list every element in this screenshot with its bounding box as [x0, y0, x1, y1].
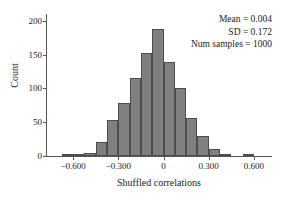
y-tick-label: 0 [0, 151, 42, 161]
histogram-bar [220, 154, 231, 156]
histogram-bar [62, 154, 73, 156]
histogram-bar [175, 88, 186, 156]
histogram-bar [209, 149, 220, 156]
histogram-bar [152, 29, 163, 156]
annotation-line-3: Num samples = 1000 [191, 38, 272, 51]
histogram-bar [141, 53, 152, 156]
x-tick-mark [254, 157, 255, 160]
y-tick-label: 50 [0, 117, 42, 127]
histogram-bar [243, 154, 254, 156]
x-tick-mark [164, 157, 165, 160]
histogram-bar [186, 118, 197, 156]
x-tick-label: 0 [161, 161, 166, 171]
histogram-bar [73, 154, 84, 156]
x-tick-mark [209, 157, 210, 160]
annotation-line-1: Mean = 0.004 [191, 13, 272, 26]
x-tick-mark [118, 157, 119, 160]
histogram-bar [164, 62, 175, 156]
histogram-bar [84, 153, 95, 156]
y-axis-ticks: 050100150200 [0, 0, 46, 202]
histogram-figure: 050100150200 Count −0.600−0.30000.3000.6… [0, 0, 283, 202]
histogram-bar [130, 78, 141, 156]
x-tick-mark [73, 157, 74, 160]
histogram-bar [118, 103, 129, 156]
x-axis-line [46, 156, 272, 157]
x-axis-label: Shuffled correlations [46, 177, 272, 188]
histogram-bar [96, 142, 107, 156]
x-tick-label: 0.600 [244, 161, 264, 171]
x-tick-label: −0.600 [60, 161, 85, 171]
x-tick-label: 0.300 [199, 161, 219, 171]
annotation-line-2: SD = 0.172 [191, 26, 272, 39]
y-tick-label: 200 [0, 16, 42, 26]
y-tick-label: 100 [0, 83, 42, 93]
y-tick-label: 150 [0, 50, 42, 60]
stats-annotation: Mean = 0.004SD = 0.172Num samples = 1000 [191, 13, 272, 51]
histogram-bar [197, 136, 208, 156]
y-axis-label: Count [9, 41, 20, 111]
x-tick-label: −0.300 [106, 161, 131, 171]
histogram-bar [107, 120, 118, 157]
